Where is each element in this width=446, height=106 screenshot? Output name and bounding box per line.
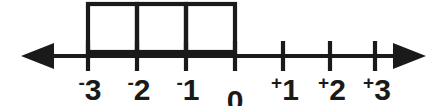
tick-digit-neg2: 2: [134, 73, 151, 106]
axis-group: [21, 43, 426, 69]
arrow-right-icon: [393, 43, 426, 69]
tick-digit-zero: 0: [227, 84, 244, 106]
unit-box-neg1-to-zero: [186, 4, 235, 52]
tick-label-pos1: +1: [271, 72, 299, 106]
tick-label-pos2: +2: [318, 72, 346, 106]
arrow-left-icon: [21, 43, 54, 69]
unit-box-neg2-to-neg1: [137, 4, 186, 52]
tick-digit-neg3: 3: [85, 73, 102, 106]
tick-label-zero: 0: [227, 84, 244, 106]
unit-box-neg3-to-neg2: [88, 4, 137, 52]
tick-label-neg1: -1: [176, 72, 199, 106]
tick-digit-neg1: 1: [183, 73, 200, 106]
diagram-canvas: -3 -2 -1 0 +1 +2 +3: [0, 0, 446, 106]
tick-labels-group: -3 -2 -1 0 +1 +2 +3: [78, 72, 390, 106]
unit-boxes-group: [88, 4, 235, 52]
tick-digit-pos3: 3: [374, 73, 391, 106]
tick-digit-pos2: 2: [329, 73, 346, 106]
tick-sign-pos1: +: [271, 72, 282, 93]
number-line-diagram: -3 -2 -1 0 +1 +2 +3: [0, 0, 446, 106]
tick-sign-pos3: +: [363, 72, 374, 93]
tick-label-neg3: -3: [78, 72, 101, 106]
tick-sign-pos2: +: [318, 72, 329, 93]
tick-label-neg2: -2: [127, 72, 150, 106]
tick-digit-pos1: 1: [282, 73, 299, 106]
tick-label-pos3: +3: [363, 72, 391, 106]
